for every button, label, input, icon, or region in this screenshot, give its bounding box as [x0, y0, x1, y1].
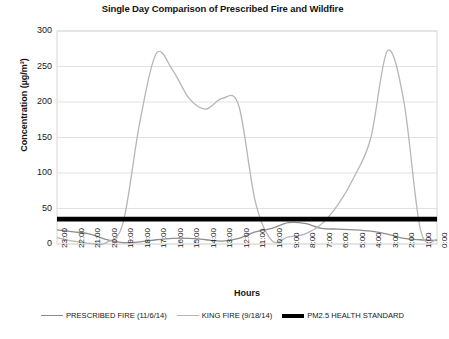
gridlines: [57, 31, 437, 244]
x-tick-label: 7:00: [325, 232, 334, 248]
x-tick-label: 23:00: [60, 228, 69, 248]
x-tick-label: 13:00: [225, 228, 234, 248]
x-tick-label: 20:00: [110, 228, 119, 248]
legend-label: PM2.5 HEALTH STANDARD: [307, 311, 404, 320]
x-tick-label: 15:00: [192, 228, 201, 248]
legend-label: PRESCRIBED FIRE (11/6/14): [66, 311, 167, 320]
x-tick-label: 21:00: [93, 228, 102, 248]
series-lines: [57, 50, 437, 244]
series-line: [57, 50, 437, 244]
x-tick-label: 18:00: [143, 228, 152, 248]
legend-swatch-icon: [177, 315, 199, 317]
x-tick-label: 17:00: [159, 228, 168, 248]
x-axis-title: Hours: [57, 288, 437, 298]
x-tick-label: 19:00: [126, 228, 135, 248]
x-tick-label: 10:00: [275, 228, 284, 248]
legend-item[interactable]: PRESCRIBED FIRE (11/6/14): [41, 311, 167, 320]
chart-legend: PRESCRIBED FIRE (11/6/14)KING FIRE (9/18…: [0, 311, 445, 320]
legend-item[interactable]: KING FIRE (9/18/14): [177, 311, 272, 320]
x-tick-label: 16:00: [176, 228, 185, 248]
x-tick-label: 12:00: [242, 228, 251, 248]
legend-swatch-icon: [282, 314, 304, 318]
x-tick-label: 4:00: [374, 232, 383, 248]
x-tick-label: 0:00: [440, 232, 449, 248]
legend-item[interactable]: PM2.5 HEALTH STANDARD: [282, 311, 404, 320]
x-tick-label: 2:00: [407, 232, 416, 248]
x-tick-label: 8:00: [308, 232, 317, 248]
x-tick-label: 3:00: [391, 232, 400, 248]
x-tick-label: 22:00: [77, 228, 86, 248]
x-tick-label: 14:00: [209, 228, 218, 248]
x-tick-label: 6:00: [341, 232, 350, 248]
x-tick-label: 5:00: [358, 232, 367, 248]
x-tick-label: 1:00: [424, 232, 433, 248]
x-tick-label: 11:00: [258, 229, 267, 248]
legend-label: KING FIRE (9/18/14): [202, 311, 272, 320]
x-tick-label: 9:00: [292, 232, 301, 248]
legend-swatch-icon: [41, 315, 63, 317]
